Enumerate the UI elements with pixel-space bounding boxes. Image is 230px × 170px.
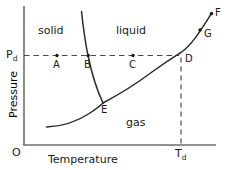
y-axis-title-wrapper: Pressure	[2, 65, 21, 125]
pd-main-text: P	[6, 48, 13, 61]
point-label-b: B	[84, 60, 91, 70]
point-c-marker	[131, 54, 134, 57]
region-label-solid: solid	[38, 25, 64, 36]
phase-diagram-figure: solid liquid gas A B C D E F G Pd Td O T…	[0, 0, 230, 170]
point-label-e: E	[101, 105, 107, 115]
x-axis-tick-label-td: Td	[175, 148, 187, 159]
origin-label: O	[12, 147, 21, 158]
fusion-curve	[82, 12, 104, 104]
region-label-liquid: liquid	[116, 25, 146, 36]
point-b-marker	[87, 54, 90, 57]
point-label-c: C	[129, 60, 136, 70]
sublimation-curve	[47, 103, 104, 127]
point-g-marker	[198, 28, 201, 31]
point-label-g: G	[204, 29, 212, 39]
point-label-f: F	[215, 8, 221, 18]
region-label-gas: gas	[126, 117, 145, 128]
td-sub-text: d	[182, 153, 187, 162]
point-f-marker	[210, 12, 213, 15]
y-axis-title: Pressure	[7, 71, 20, 118]
pd-sub-text: d	[13, 54, 18, 63]
td-main-text: T	[175, 147, 182, 160]
x-axis-title: Temperature	[48, 154, 118, 165]
phase-diagram-canvas	[0, 0, 230, 170]
point-label-a: A	[53, 60, 60, 70]
point-a-marker	[55, 54, 58, 57]
y-axis-tick-label-pd: Pd	[6, 49, 17, 60]
point-label-d: D	[185, 54, 193, 64]
